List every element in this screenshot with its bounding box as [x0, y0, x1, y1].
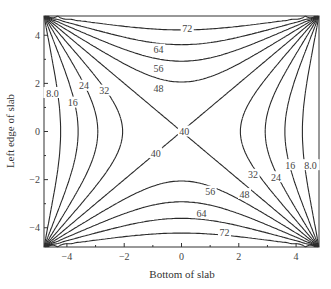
- svg-text:4: 4: [35, 30, 40, 41]
- contour-label: 40: [151, 148, 161, 159]
- svg-text:−2: −2: [29, 174, 40, 185]
- contour-label: 8.0: [46, 88, 59, 99]
- contour-label: 72: [182, 23, 192, 34]
- contour-chart: −4−2024−4−2024 726456483224168.040403224…: [0, 0, 331, 289]
- contour-label: 16: [285, 160, 295, 171]
- contour-labels: 726456483224168.040403224168.056486472: [43, 22, 319, 238]
- svg-text:2: 2: [236, 251, 241, 262]
- svg-text:−4: −4: [29, 222, 40, 233]
- svg-text:0: 0: [35, 126, 40, 137]
- contour-label: 56: [154, 63, 164, 74]
- contour-label: 16: [68, 97, 78, 108]
- contour-label: 48: [154, 83, 164, 94]
- contour-label: 32: [99, 85, 109, 96]
- svg-text:4: 4: [294, 251, 299, 262]
- contour-label: 8.0: [304, 160, 317, 171]
- contour-label: 24: [271, 172, 281, 183]
- contour-label: 72: [219, 227, 229, 238]
- contour-label: 64: [197, 208, 207, 219]
- y-axis-title: Left edge of slab: [4, 93, 16, 168]
- svg-text:−2: −2: [119, 251, 130, 262]
- x-axis-title: Bottom of slab: [149, 268, 215, 280]
- contour-label: 32: [248, 169, 258, 180]
- contour-label: 24: [79, 80, 89, 91]
- contour-label: 48: [240, 189, 250, 200]
- contour-label: 56: [205, 186, 215, 197]
- contour-label: 64: [154, 44, 164, 55]
- svg-text:2: 2: [35, 78, 40, 89]
- svg-text:0: 0: [179, 251, 184, 262]
- svg-text:−4: −4: [62, 251, 73, 262]
- contour-label: 40: [179, 126, 189, 137]
